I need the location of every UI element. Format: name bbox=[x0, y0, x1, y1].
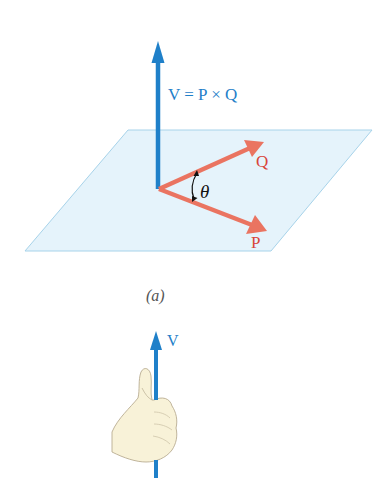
cross-product-figure: θ V = P × Q Q P (a) V bbox=[0, 0, 385, 488]
figure-b: V bbox=[112, 331, 179, 478]
vector-v-label: V bbox=[167, 332, 179, 349]
angle-label: θ bbox=[200, 181, 209, 202]
plane bbox=[25, 130, 372, 251]
vector-q-label: Q bbox=[256, 152, 268, 171]
equation-label: V = P × Q bbox=[168, 85, 237, 104]
vector-p-label: P bbox=[251, 233, 260, 252]
right-hand-icon bbox=[112, 369, 177, 462]
caption-a: (a) bbox=[146, 287, 165, 305]
vector-v-arrowhead bbox=[150, 331, 162, 350]
figure-a: θ V = P × Q Q P (a) bbox=[25, 41, 372, 305]
